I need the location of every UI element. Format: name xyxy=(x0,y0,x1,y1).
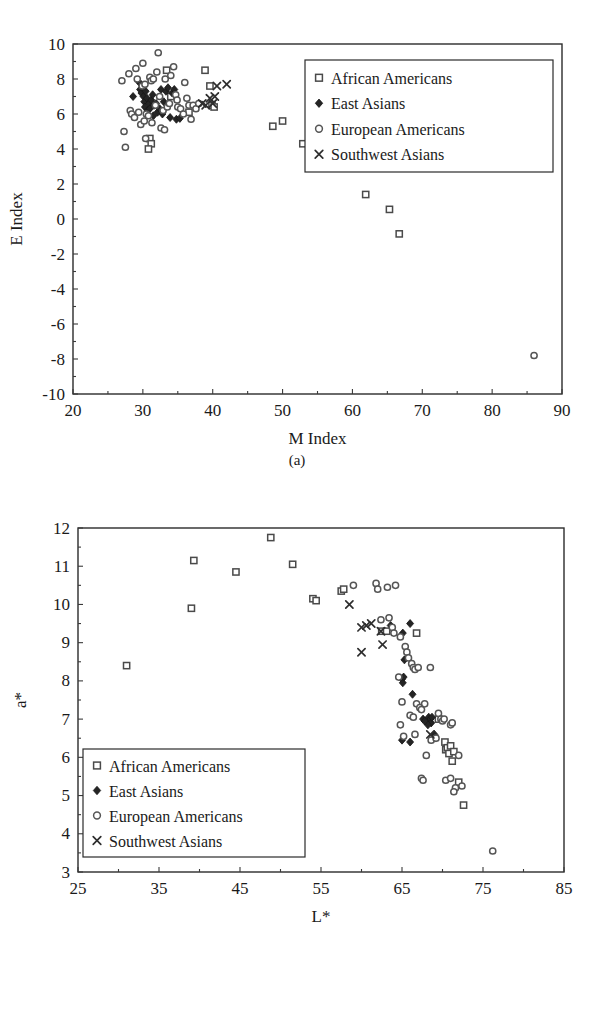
y-tick-label: 2 xyxy=(57,175,66,194)
data-point xyxy=(459,783,465,789)
legend-item-label: Southwest Asians xyxy=(109,833,222,850)
data-point xyxy=(423,752,429,758)
y-tick-label: 4 xyxy=(62,824,71,843)
data-point xyxy=(490,848,496,854)
data-point xyxy=(375,586,381,592)
legend-item: Southwest Asians xyxy=(315,146,444,163)
scatter-plot-e-index-vs-m-index: -10-8-6-4-202468102030405060708090M Inde… xyxy=(0,0,594,500)
data-point xyxy=(448,775,454,781)
data-point xyxy=(396,674,402,680)
data-point xyxy=(119,78,125,84)
data-point xyxy=(397,634,403,640)
data-point xyxy=(313,598,319,604)
legend-item: European Americans xyxy=(94,808,243,826)
data-point xyxy=(384,628,390,634)
data-point xyxy=(409,690,416,698)
y-tick-label: -2 xyxy=(51,245,65,264)
x-tick-label: 65 xyxy=(394,879,411,898)
data-point xyxy=(399,699,405,705)
data-point xyxy=(145,113,151,119)
legend-item: Southwest Asians xyxy=(93,833,222,850)
data-point xyxy=(407,738,414,746)
data-point xyxy=(168,72,174,78)
data-point xyxy=(124,663,130,669)
data-point xyxy=(167,114,174,122)
data-point xyxy=(150,76,156,82)
data-point xyxy=(133,65,139,71)
x-tick-label: 60 xyxy=(344,401,361,420)
data-point xyxy=(456,752,462,758)
data-point xyxy=(441,716,447,722)
data-point xyxy=(378,617,384,623)
data-point xyxy=(233,569,239,575)
data-point xyxy=(121,128,127,134)
y-axis-title: a* xyxy=(11,692,30,708)
y-axis-title: E Index xyxy=(7,192,26,246)
legend-marker-open-square xyxy=(316,74,323,81)
data-point xyxy=(130,93,137,101)
data-point xyxy=(392,582,398,588)
data-point xyxy=(180,111,186,117)
y-tick-label: -6 xyxy=(51,315,65,334)
series-southwest-asians xyxy=(199,81,231,109)
x-tick-label: 25 xyxy=(70,879,87,898)
data-point xyxy=(407,620,414,628)
data-point xyxy=(155,50,161,56)
y-tick-label: 12 xyxy=(53,519,70,538)
data-point xyxy=(346,601,353,608)
data-point xyxy=(341,586,347,592)
x-tick-label: 40 xyxy=(204,401,221,420)
data-point xyxy=(140,60,146,66)
data-point xyxy=(161,127,167,133)
data-point xyxy=(391,630,397,636)
data-point xyxy=(136,109,142,115)
legend-item: African Americans xyxy=(316,70,453,87)
data-point xyxy=(427,664,433,670)
data-point xyxy=(386,206,392,212)
data-point xyxy=(290,561,296,567)
data-point xyxy=(145,146,151,152)
legend-item: European Americans xyxy=(316,121,465,139)
data-point xyxy=(449,720,455,726)
legend: African AmericansEast AsiansEuropean Ame… xyxy=(83,749,305,857)
y-tick-label: 6 xyxy=(57,105,66,124)
data-point xyxy=(415,664,421,670)
x-tick-label: 70 xyxy=(414,401,431,420)
x-tick-label: 20 xyxy=(65,401,82,420)
data-point xyxy=(384,584,390,590)
data-point xyxy=(397,722,403,728)
y-tick-label: 8 xyxy=(57,70,66,89)
y-tick-label: 0 xyxy=(57,210,66,229)
data-point xyxy=(149,120,155,126)
panel-caption-a: (a) xyxy=(0,452,594,469)
data-point xyxy=(134,76,140,82)
data-point xyxy=(182,79,188,85)
legend-item-label: European Americans xyxy=(109,808,243,826)
legend-marker-open-circle xyxy=(94,812,101,819)
y-tick-label: 10 xyxy=(48,35,65,54)
data-point xyxy=(188,116,194,122)
scatter-panel-a: -10-8-6-4-202468102030405060708090M Inde… xyxy=(0,0,594,500)
data-point xyxy=(451,789,457,795)
legend-item-label: African Americans xyxy=(109,758,230,775)
data-point xyxy=(191,557,197,563)
scatter-panel-b: 345678910111225354555657585L*a*African A… xyxy=(0,490,594,1013)
x-tick-label: 45 xyxy=(232,879,249,898)
data-point xyxy=(188,605,194,611)
data-point xyxy=(166,100,172,106)
data-point xyxy=(207,83,213,89)
legend-marker-open-circle xyxy=(316,125,323,132)
y-tick-label: 5 xyxy=(62,786,71,805)
data-point xyxy=(460,802,466,808)
data-point xyxy=(412,731,418,737)
data-point xyxy=(350,582,356,588)
y-tick-label: -8 xyxy=(51,350,65,369)
x-tick-label: 85 xyxy=(556,879,573,898)
legend-item-label: Southwest Asians xyxy=(331,146,444,163)
x-tick-label: 80 xyxy=(484,401,501,420)
scatter-plot-astar-vs-lstar: 345678910111225354555657585L*a*African A… xyxy=(0,490,594,1013)
data-point xyxy=(379,641,386,648)
data-point xyxy=(270,123,276,129)
y-axis-title-group: E Index xyxy=(7,192,26,246)
data-point xyxy=(396,231,402,237)
